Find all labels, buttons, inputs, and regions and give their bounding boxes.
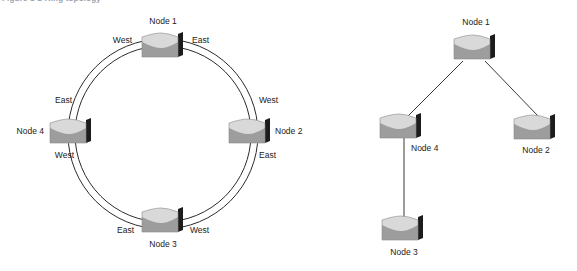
tree-topology-diagram: Node 1 Node 4 Node 2 Node 3 [330, 0, 577, 271]
ring-node1-port-east: East [192, 36, 209, 45]
ring-node-node1[interactable] [140, 31, 186, 59]
ring-topology-diagram: Node 1 West East Node 2 West East Node 3… [0, 0, 330, 271]
router-icon [512, 113, 558, 141]
ring-node-node2[interactable] [227, 117, 273, 145]
ring-node2-port-west: West [259, 96, 278, 105]
ring-link-inner [75, 46, 251, 222]
ring-node2-label: Node 2 [275, 127, 302, 136]
router-icon [227, 117, 273, 145]
ring-node3-label: Node 3 [149, 240, 176, 249]
router-icon [380, 214, 426, 242]
ring-node2-port-east: East [259, 151, 276, 160]
router-icon [48, 117, 94, 145]
tree-node-node2[interactable] [512, 113, 558, 141]
tree-node2-label: Node 2 [522, 146, 549, 155]
tree-node1-label: Node 1 [462, 18, 489, 27]
ring-node4-port-east: East [55, 96, 72, 105]
tree-node4-label: Node 4 [411, 144, 438, 153]
router-icon [140, 31, 186, 59]
ring-node-node3[interactable] [140, 206, 186, 234]
ring-node1-label: Node 1 [149, 17, 176, 26]
tree-node-node3[interactable] [380, 214, 426, 242]
router-icon [378, 112, 424, 140]
ring-node4-port-west: West [55, 151, 74, 160]
ring-node-node4[interactable] [48, 117, 94, 145]
ring-node1-port-west: West [113, 36, 132, 45]
ring-node4-label: Node 4 [17, 127, 44, 136]
tree-node3-label: Node 3 [390, 248, 417, 257]
tree-link-node1-node2 [485, 61, 539, 117]
tree-node-node4[interactable] [378, 112, 424, 140]
router-icon [452, 33, 498, 61]
ring-node3-port-east: East [117, 226, 134, 235]
router-icon [140, 206, 186, 234]
tree-node-node1[interactable] [452, 33, 498, 61]
tree-link-node1-node4 [408, 61, 463, 116]
ring-node3-port-west: West [190, 226, 209, 235]
